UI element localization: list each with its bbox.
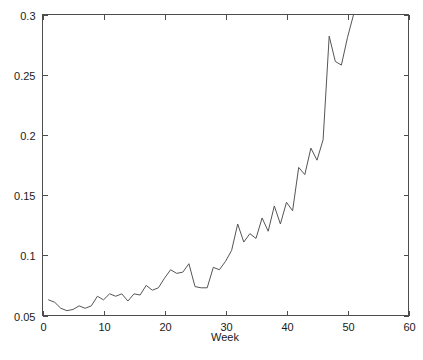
plot-frame [43,15,409,316]
x-tick-label: 60 [403,321,415,333]
x-tick-label: 0 [40,321,46,333]
y-tick-label: 0.25 [14,70,35,82]
x-axis-title: Week [211,331,239,343]
y-tick-label: 0.1 [20,250,35,262]
y-tick-label: 0.3 [20,10,35,22]
x-tick-label: 40 [281,321,293,333]
x-axis-ticks: 0102030405060 [40,15,415,333]
x-tick-label: 50 [342,321,354,333]
x-tick-label: 10 [98,321,110,333]
data-series-group [49,15,354,311]
line-chart-plot: 0102030405060 0.050.10.150.20.250.3 Week [0,0,423,360]
chart-figure: 0102030405060 0.050.10.150.20.250.3 Week [0,0,423,360]
plot-border [43,15,409,316]
y-tick-label: 0.15 [14,190,35,202]
data-line-series-1 [49,15,354,311]
x-tick-label: 20 [159,321,171,333]
y-tick-label: 0.05 [14,311,35,323]
y-tick-label: 0.2 [20,130,35,142]
